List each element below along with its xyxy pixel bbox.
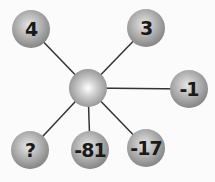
node-right: -1	[170, 70, 208, 108]
node-label: -81	[74, 139, 105, 161]
center-sphere	[69, 69, 107, 107]
node-bottom-middle: -81	[71, 131, 109, 169]
node-label: ?	[25, 139, 35, 161]
number-puzzle-diagram: 4 3 -1 ? -81 -17	[0, 0, 215, 182]
node-label: 4	[25, 18, 37, 40]
node-bottom-left-unknown: ?	[11, 131, 49, 169]
node-label: -17	[130, 137, 161, 159]
node-top-right: 3	[127, 9, 165, 47]
node-bottom-right: -17	[127, 129, 165, 167]
node-label: 3	[140, 17, 152, 39]
node-top-left: 4	[12, 10, 50, 48]
node-label: -1	[179, 78, 198, 100]
